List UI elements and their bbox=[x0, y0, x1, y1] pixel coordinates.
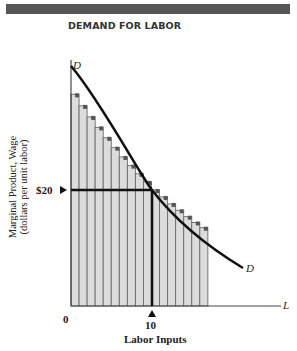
bar bbox=[160, 197, 168, 306]
x-axis-label: Labor Inputs bbox=[124, 333, 186, 345]
bar bbox=[111, 148, 119, 306]
wage-tick-label: $20 bbox=[36, 184, 53, 196]
y-axis-label-line2: (dollars per unit labor) bbox=[18, 136, 29, 238]
bar-step bbox=[115, 147, 119, 151]
bar bbox=[119, 157, 127, 306]
labor-tick-label: 10 bbox=[145, 319, 156, 331]
bar-step bbox=[172, 203, 176, 207]
bar-step bbox=[196, 221, 200, 225]
bar bbox=[103, 138, 111, 306]
bar bbox=[87, 117, 95, 306]
curve-label-top: D bbox=[73, 59, 81, 71]
y-axis-label-line1: Marginal Product, Wage bbox=[7, 136, 18, 238]
origin-label: 0 bbox=[63, 313, 69, 325]
curve-label-end: D bbox=[246, 262, 254, 274]
bar-step bbox=[91, 116, 95, 120]
y-axis-label: Marginal Product, Wage (dollars per unit… bbox=[7, 136, 29, 238]
bar bbox=[168, 204, 176, 306]
bar-step bbox=[83, 105, 87, 109]
bar-step bbox=[156, 189, 160, 193]
chart-plot bbox=[0, 0, 297, 351]
bar-step bbox=[164, 196, 168, 200]
bar bbox=[79, 106, 87, 306]
bar-step bbox=[107, 137, 111, 141]
bar bbox=[127, 166, 135, 306]
bar bbox=[143, 182, 151, 306]
x-axis-symbol: L bbox=[283, 299, 289, 311]
bar-step bbox=[204, 227, 208, 231]
bar-step bbox=[180, 209, 184, 213]
wage-arrow-icon bbox=[60, 186, 67, 194]
bar bbox=[135, 174, 143, 306]
labor-arrow-icon bbox=[148, 310, 156, 317]
marginal-product-bars bbox=[71, 93, 208, 306]
bar-step bbox=[123, 156, 127, 160]
bar-step bbox=[75, 93, 79, 97]
bar-step bbox=[188, 216, 192, 220]
bar bbox=[71, 94, 79, 306]
bar bbox=[95, 127, 103, 306]
bar-step bbox=[99, 126, 103, 130]
